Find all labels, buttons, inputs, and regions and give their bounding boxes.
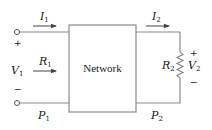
output-minus-sign: − [190, 77, 198, 87]
input-port: I1 + − V1 R1 P1 [11, 10, 69, 123]
output-bottom-wire [136, 78, 180, 103]
input-terminal-top-icon [15, 30, 20, 35]
label-v2: V2 [188, 59, 200, 73]
label-i2: I2 [151, 10, 161, 24]
output-top-wire [136, 32, 180, 52]
label-v1: V1 [11, 64, 23, 78]
network-box: Network [69, 25, 136, 112]
two-port-network-diagram: Network I1 + − V1 R1 P1 [0, 0, 212, 130]
resistor-r2-icon [177, 52, 183, 78]
network-label: Network [83, 62, 122, 74]
label-p2: P2 [150, 109, 163, 123]
input-terminal-bottom-icon [15, 101, 20, 106]
label-i1: I1 [39, 10, 49, 24]
input-plus-sign: + [14, 38, 22, 48]
label-p1: P1 [37, 109, 50, 123]
label-r2: R2 [161, 59, 175, 73]
output-plus-sign: + [190, 48, 198, 58]
input-minus-sign: − [14, 84, 22, 94]
output-port: I2 R2 V2 + − P2 [136, 10, 200, 123]
label-r1: R1 [38, 55, 52, 69]
